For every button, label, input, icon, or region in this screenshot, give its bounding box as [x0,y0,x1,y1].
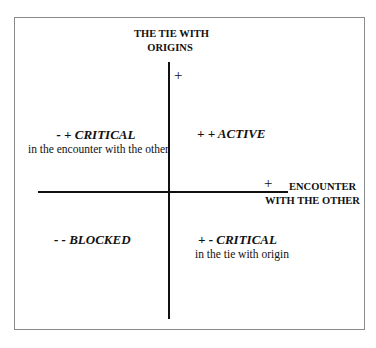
vertical-axis-label: THE TIE WITH ORIGINS [134,27,206,55]
quadrant-bottom-left-signs: - - [54,232,66,247]
horizontal-axis-plus-marker: + [264,176,272,191]
diagram-frame [14,17,365,330]
horizontal-axis-label-line1: ENCOUNTER [288,180,356,194]
quadrant-bottom-left-title: - - BLOCKED [54,232,131,248]
quadrant-bottom-left-label: BLOCKED [69,232,130,247]
vertical-axis-label-line2: ORIGINS [134,41,206,55]
quadrant-top-left-signs: - + [57,127,72,142]
quadrant-top-right-title: + + ACTIVE [197,126,266,142]
horizontal-axis [38,191,288,193]
quadrant-top-left: - + CRITICAL [30,127,162,143]
quadrant-bottom-right-signs: + - [198,232,213,247]
vertical-axis-label-line1: THE TIE WITH [134,27,206,41]
quadrant-top-right-signs: + + [197,126,215,141]
quadrant-top-left-title: - + CRITICAL [30,127,162,143]
quadrant-bottom-right-title: + - CRITICAL [198,232,277,248]
horizontal-axis-label: ENCOUNTER [288,180,356,194]
quadrant-bottom-right-label: CRITICAL [216,232,277,247]
quadrant-top-left-label: CRITICAL [75,127,136,142]
quadrant-top-left-subtitle: in the encounter with the other [28,143,166,155]
horizontal-axis-label-line2: WITH THE OTHER [265,194,360,208]
vertical-axis-plus-marker: + [174,68,182,83]
quadrant-top-right-label: ACTIVE [218,126,266,141]
quadrant-bottom-right-subtitle: in the tie with origin [195,248,289,260]
